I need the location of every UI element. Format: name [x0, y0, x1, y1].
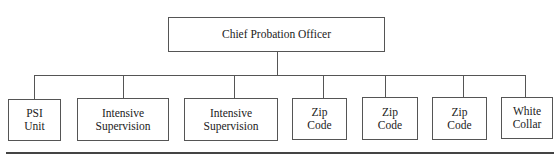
child-node-label-line2: Code: [447, 119, 471, 132]
child-node-label-line1: White: [513, 105, 542, 118]
connector-child-6: [525, 75, 526, 97]
child-node-label-line1: Zip: [307, 106, 331, 119]
child-node-label-line1: Intensive: [204, 107, 259, 120]
bottom-rule-divider: [6, 152, 554, 154]
child-node-label-line2: Supervision: [204, 120, 259, 133]
child-node-label-line2: Supervision: [96, 120, 151, 133]
root-node-label: Chief Probation Officer: [222, 28, 331, 41]
child-node-zip-code-2: ZipCode: [362, 97, 418, 140]
child-node-label-line1: Intensive: [96, 107, 151, 120]
child-node-label-line1: PSI: [24, 107, 44, 120]
root-node-chief-probation-officer: Chief Probation Officer: [168, 17, 385, 52]
connector-root-down: [277, 51, 278, 75]
child-node-zip-code-1: ZipCode: [292, 98, 347, 140]
child-node-intensive-supervision-1: IntensiveSupervision: [77, 98, 169, 141]
child-node-psi-unit: PSIUnit: [8, 99, 61, 141]
child-node-label-line2: Unit: [24, 120, 44, 133]
connector-child-4: [385, 75, 386, 97]
child-node-label-line1: Zip: [378, 106, 402, 119]
child-node-zip-code-3: ZipCode: [432, 97, 487, 140]
connector-child-3: [323, 75, 324, 98]
connector-horizontal-bus: [34, 75, 526, 76]
child-node-label-line2: Collar: [513, 118, 542, 131]
child-node-label-line1: Zip: [447, 106, 471, 119]
child-node-label-line2: Code: [378, 119, 402, 132]
child-node-white-collar: WhiteCollar: [501, 97, 553, 139]
child-node-intensive-supervision-2: IntensiveSupervision: [184, 98, 278, 141]
connector-child-5: [463, 75, 464, 97]
connector-child-1: [123, 75, 124, 98]
connector-child-2: [234, 75, 235, 98]
connector-child-0: [34, 75, 35, 99]
child-node-label-line2: Code: [307, 119, 331, 132]
